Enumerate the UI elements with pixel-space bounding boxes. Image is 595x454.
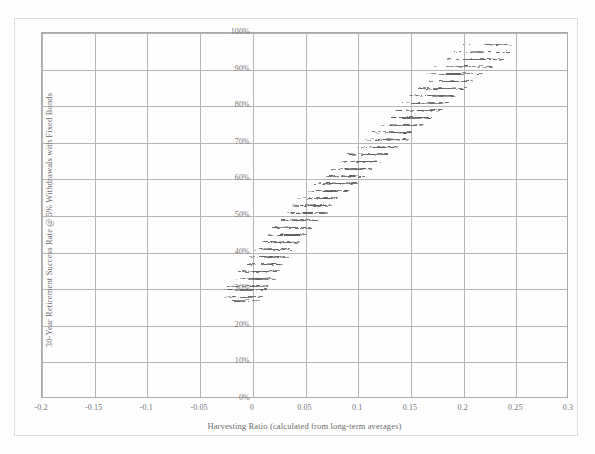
scatter-point: [308, 228, 312, 229]
scatter-point: [323, 213, 325, 214]
scatter-point: [362, 176, 363, 177]
scatter-point: [434, 109, 435, 110]
scatter-point: [280, 257, 284, 258]
scatter-point: [271, 263, 274, 264]
scatter-point: [387, 146, 390, 147]
scatter-point: [446, 66, 450, 67]
x-tick-label: 0.3: [548, 403, 588, 413]
scatter-point: [256, 290, 257, 291]
scatter-point: [381, 125, 384, 126]
scatter-point: [310, 191, 311, 192]
scatter-point: [338, 190, 342, 191]
scatter-point: [254, 300, 257, 301]
y-tick-label: 100%: [216, 27, 250, 36]
y-tick-label: 20%: [216, 320, 250, 329]
scatter-point-cluster: [235, 300, 245, 301]
scatter-point: [364, 146, 365, 147]
scatter-point: [454, 51, 455, 52]
scatter-point: [450, 66, 454, 67]
scatter-point: [333, 176, 336, 177]
scatter-point: [229, 297, 231, 298]
scatter-point: [442, 74, 444, 75]
scatter-point-cluster: [240, 297, 249, 298]
scatter-point: [496, 52, 499, 53]
scatter-point: [509, 45, 512, 46]
scatter-point: [370, 140, 371, 141]
scatter-point: [328, 205, 329, 206]
scatter-point: [295, 242, 297, 243]
scatter-point: [336, 198, 337, 199]
scatter-point: [423, 88, 425, 89]
scatter-point: [295, 206, 299, 207]
scatter-point: [466, 52, 467, 53]
gridline-vertical: [147, 33, 148, 397]
scatter-point: [503, 52, 505, 53]
scatter-point: [420, 96, 423, 97]
scatter-point-cluster: [359, 161, 377, 162]
scatter-point: [424, 118, 427, 119]
scatter-point-cluster: [350, 168, 364, 169]
scatter-point: [484, 67, 487, 68]
scatter-point: [420, 124, 424, 125]
scatter-point: [309, 198, 312, 199]
plot-area: [41, 32, 568, 398]
scatter-point: [471, 80, 472, 81]
scatter-point: [375, 139, 377, 140]
scatter-point: [472, 66, 474, 67]
scatter-point: [390, 125, 393, 126]
y-tick-label: 10%: [216, 356, 250, 365]
scatter-point: [337, 176, 338, 177]
scatter-point-cluster: [308, 205, 325, 206]
x-tick-label: 0.05: [285, 403, 325, 413]
scatter-point: [227, 296, 228, 297]
scatter-point: [340, 162, 341, 163]
gridline-horizontal: [42, 179, 567, 180]
scatter-point: [471, 73, 473, 74]
scatter-point: [369, 169, 372, 170]
scatter-point: [406, 140, 408, 141]
scatter-point: [350, 161, 352, 162]
scatter-point: [402, 139, 403, 140]
scatter-point: [300, 213, 301, 214]
scatter-point: [433, 102, 435, 103]
scatter-point: [366, 147, 367, 148]
scatter-point: [456, 52, 457, 53]
scatter-point: [296, 213, 299, 214]
scatter-point-cluster: [471, 51, 484, 52]
gridline-vertical: [200, 33, 201, 397]
scatter-point: [265, 290, 266, 291]
scatter-point: [415, 94, 416, 95]
scatter-point: [345, 161, 347, 162]
scatter-point: [253, 296, 256, 297]
scatter-point: [349, 154, 351, 155]
gridline-horizontal: [42, 216, 567, 217]
y-tick-label: 40%: [216, 247, 250, 256]
scatter-point: [313, 191, 314, 192]
scatter-point: [336, 191, 337, 192]
scatter-point-cluster: [249, 278, 268, 279]
scatter-point: [406, 110, 409, 111]
scatter-point: [337, 190, 339, 191]
scatter-point: [325, 212, 328, 213]
y-tick-label: 30%: [216, 283, 250, 292]
scatter-point: [261, 249, 262, 250]
scatter-point: [380, 162, 381, 163]
scatter-point-cluster: [383, 139, 394, 140]
scatter-point: [242, 271, 244, 272]
scatter-point: [357, 147, 358, 148]
scatter-point: [275, 270, 276, 271]
scatter-point: [275, 228, 276, 229]
x-tick-label: -0.05: [179, 403, 219, 413]
scatter-point: [256, 300, 260, 301]
scatter-point-cluster: [264, 256, 279, 257]
gridline-vertical: [516, 33, 517, 397]
scatter-point: [394, 139, 398, 140]
scatter-point: [479, 73, 483, 74]
scatter-point: [461, 81, 462, 82]
scatter-point-cluster: [292, 220, 306, 221]
scatter-point: [393, 117, 397, 118]
scatter-point-cluster: [271, 249, 279, 250]
scatter-point: [327, 206, 328, 207]
scatter-point: [346, 182, 350, 183]
gridline-vertical: [411, 33, 412, 397]
